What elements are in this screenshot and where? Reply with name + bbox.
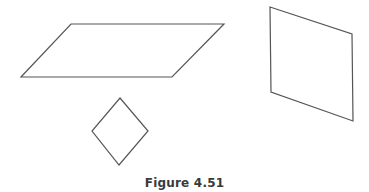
figure-canvas xyxy=(0,0,369,192)
rhombus-shape xyxy=(92,98,148,165)
quadrilateral-shape xyxy=(270,7,353,121)
parallelogram-shape xyxy=(21,24,224,77)
figure-caption: Figure 4.51 xyxy=(0,176,369,190)
